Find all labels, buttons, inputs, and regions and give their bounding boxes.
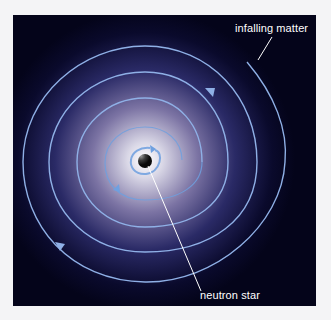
accretion-glow xyxy=(13,15,316,306)
neutron-star-icon xyxy=(138,154,152,168)
infalling-matter-label: infalling matter xyxy=(235,22,308,34)
accretion-spiral-diagram xyxy=(13,15,316,306)
diagram-panel: infalling matter neutron star xyxy=(13,15,316,306)
neutron-star-label: neutron star xyxy=(200,289,260,301)
